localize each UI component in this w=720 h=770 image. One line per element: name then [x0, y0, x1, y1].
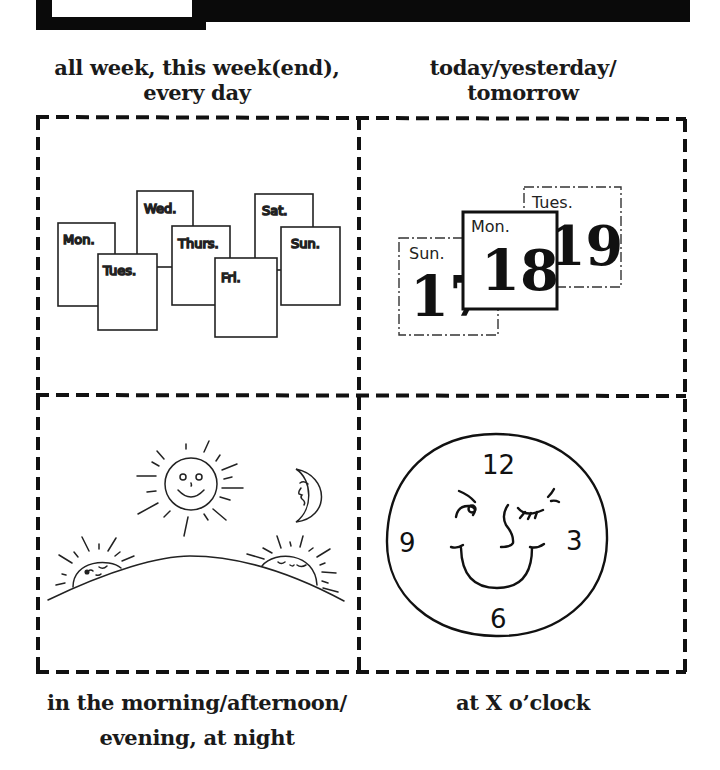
svg-text:Thurs.: Thurs.: [177, 236, 219, 251]
daily-calendar-pages-icon: Tues. 19 Sun. 17 Mon. 18: [399, 187, 623, 335]
setting-sun-icon: [247, 536, 338, 592]
svg-text:Sun.: Sun.: [409, 244, 445, 263]
clock-number-12: 12: [482, 450, 515, 480]
svg-text:Tues.: Tues.: [531, 193, 573, 212]
page-tues: Tues.: [98, 254, 157, 330]
caption-times-of-day: in the morning/afternoon/ evening, at ni…: [30, 690, 364, 750]
svg-text:Sun.: Sun.: [291, 236, 320, 251]
svg-text:Sat.: Sat.: [262, 203, 287, 218]
weekday-calendar-pages-icon: Mon. Wed. Tues. Sat. Thurs. Fri. Sun.: [58, 191, 340, 337]
svg-text:Fri.: Fri.: [221, 270, 241, 285]
caption-times-line-2: evening, at night: [30, 725, 364, 750]
clock-number-3: 3: [566, 526, 583, 556]
clock-number-6: 6: [490, 604, 507, 634]
smiling-sun-icon: [137, 441, 243, 536]
caption-times-line-1: in the morning/afternoon/: [30, 690, 364, 715]
svg-text:Tues.: Tues.: [102, 263, 136, 278]
page-sun: Sun.: [281, 227, 340, 305]
svg-text:Wed.: Wed.: [144, 201, 176, 216]
sun-and-moon-over-hill-icon: [48, 441, 344, 601]
caption-clock: at X o’clock: [360, 690, 686, 715]
crescent-moon-icon: [296, 469, 322, 522]
svg-text:19: 19: [548, 214, 623, 278]
svg-text:Mon.: Mon.: [63, 232, 95, 247]
panel-grid: Mon. Wed. Tues. Sat. Thurs. Fri. Sun.: [0, 0, 720, 770]
winking-clock-face-icon: 12 3 6 9: [387, 434, 607, 636]
svg-text:Mon.: Mon.: [471, 217, 510, 236]
clock-number-9: 9: [399, 528, 416, 558]
caption-clock-line-1: at X o’clock: [360, 690, 686, 715]
page-mon-18: Mon. 18: [463, 212, 559, 309]
svg-text:18: 18: [481, 237, 559, 303]
hill-curve: [48, 556, 344, 601]
page-fri: Fri.: [215, 258, 277, 337]
